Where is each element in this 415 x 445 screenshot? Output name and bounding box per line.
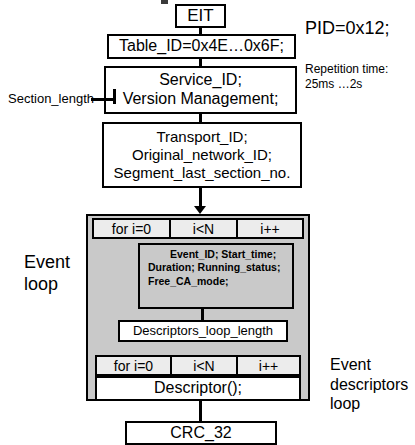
node-transport-id: Transport_ID; Original_network_ID; Segme… [102, 122, 302, 188]
annotation-event-descriptors-loop-line-2: descriptors [330, 375, 408, 395]
for-loop-header-event: for i=0 i<N i++ [92, 218, 304, 239]
for-loop-descriptor-cond: i<N [172, 357, 238, 374]
annotation-pid-label: PID=0x12; [305, 18, 390, 38]
annotation-pid: PID=0x12; [305, 18, 390, 40]
for-loop-event-init: for i=0 [94, 220, 171, 237]
for-loop-descriptor-incr: i++ [238, 357, 299, 374]
node-transport-id-line-1: Transport_ID; [156, 128, 247, 146]
eit-structure-diagram: EIT Table_ID=0x4E…0x6F; Service_ID; Vers… [0, 0, 415, 445]
annotation-event-loop-line-2: loop [24, 274, 70, 296]
node-transport-id-line-2: Original_network_ID; [132, 146, 272, 164]
annotation-repetition-time-line-2: 25ms …2s [305, 77, 388, 92]
node-service-id: Service_ID; Version Management; [104, 66, 297, 114]
node-descriptors-loop-length: Descriptors_loop_length [118, 320, 288, 342]
node-descriptor-label: Descriptor(); [154, 379, 242, 398]
annotation-event-descriptors-loop: Event descriptors loop [330, 355, 408, 414]
node-descriptor: Descriptor(); [95, 376, 301, 401]
node-event-fields-line-3: Duration; [148, 261, 195, 273]
node-service-id-line-1: Service_ID; [159, 71, 242, 90]
for-loop-header-descriptor: for i=0 i<N i++ [95, 355, 301, 376]
node-event-fields-line-4: Running_status; [198, 261, 281, 273]
node-event-fields: Event_ID; Start_time; Duration; Running_… [138, 243, 294, 309]
for-loop-event-incr: i++ [238, 220, 302, 237]
node-crc-32: CRC_32 [125, 421, 277, 445]
for-loop-descriptor-init: for i=0 [97, 357, 172, 374]
annotation-repetition-time-line-1: Repetition time: [305, 62, 388, 77]
node-event-fields-line-5: Free_CA_mode; [148, 275, 229, 287]
for-loop-event-cond: i<N [171, 220, 238, 237]
annotation-repetition-time: Repetition time: 25ms …2s [305, 62, 388, 91]
node-descriptors-loop-length-label: Descriptors_loop_length [133, 323, 273, 338]
annotation-event-descriptors-loop-line-1: Event [330, 355, 408, 375]
node-eit: EIT [175, 4, 226, 28]
node-table-id-label: Table_ID=0x4E…0x6F; [119, 37, 284, 56]
node-event-fields-line-2: Start_time; [221, 248, 276, 260]
annotation-event-loop-line-1: Event [24, 252, 70, 274]
annotation-event-loop: Event loop [24, 252, 70, 296]
node-crc-32-label: CRC_32 [170, 424, 231, 443]
node-table-id: Table_ID=0x4E…0x6F; [107, 34, 296, 59]
arrowhead-eventloop [194, 206, 206, 214]
node-event-fields-line-1: Event_ID; [148, 248, 218, 260]
node-transport-id-line-3: Segment_last_section_no. [114, 164, 291, 182]
leader-line-section-length-stub [113, 89, 116, 104]
node-eit-label: EIT [187, 6, 213, 26]
connector-eventloop-crc [199, 400, 202, 422]
annotation-section-length-label: Section_length [8, 91, 94, 106]
clipped-text-artifact [161, 0, 168, 4]
annotation-event-descriptors-loop-line-3: loop [330, 394, 408, 414]
leader-line-section-length [91, 98, 115, 101]
annotation-section-length: Section_length [8, 91, 94, 107]
node-service-id-line-2: Version Management; [123, 90, 279, 109]
